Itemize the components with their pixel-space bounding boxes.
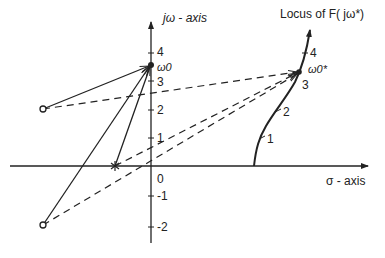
omega0-star-point — [296, 69, 302, 75]
omega0-point — [148, 62, 154, 68]
locus-tick-3: 3 — [302, 79, 309, 91]
locus-title: Locus of F( jω*) — [280, 8, 364, 20]
diagram-graphics — [0, 0, 385, 258]
jw-axis-label: jω - axis — [163, 12, 207, 24]
imag-tick-1: 1 — [157, 132, 164, 144]
imag-tick-neg1: -1 — [157, 190, 168, 202]
omega0-star-label: ω0* — [308, 64, 327, 75]
pole-upper-icon — [40, 106, 46, 112]
jw-axis — [148, 22, 154, 243]
imag-tick-4: 4 — [157, 46, 164, 58]
origin-label: 0 — [157, 173, 164, 185]
vectors-to-omega0 — [43, 66, 150, 225]
sigma-axis-label: σ - axis — [326, 175, 365, 187]
imag-tick-3: 3 — [157, 76, 164, 88]
omega0-label: ω0 — [157, 62, 172, 73]
locus-tick-4: 4 — [310, 47, 317, 59]
locus-tick-1: 1 — [267, 133, 274, 145]
s-plane-diagram: jω - axis Locus of F( jω*) σ - axis ω0 ω… — [0, 0, 385, 258]
locus-curve — [254, 30, 310, 166]
imag-tick-2: 2 — [157, 104, 164, 116]
locus-tick-2: 2 — [283, 106, 290, 118]
vectors-to-omega0-star — [43, 72, 297, 225]
pole-lower-icon — [40, 222, 46, 228]
imag-tick-neg2: -2 — [157, 221, 168, 233]
